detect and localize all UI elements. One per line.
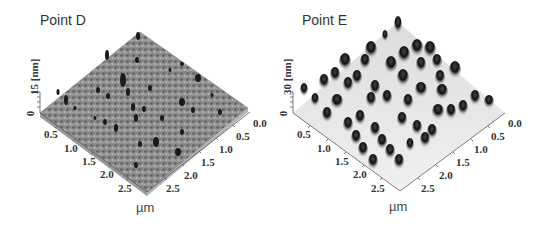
y-tick: 0.5 [491,131,505,142]
afm-surface-d [0,0,275,227]
y-tick: 0.5 [236,131,250,142]
unit-label: µm [136,200,154,215]
x-tick: 1.0 [64,143,78,154]
z-axis-label: 30 [nm] [281,59,293,95]
y-tick: 1.0 [474,144,488,155]
x-tick: 2.0 [353,169,367,180]
y-tick: 1.5 [456,157,470,168]
x-tick: 1.5 [82,156,96,167]
y-tick: 1.0 [219,144,233,155]
x-tick: 2.5 [118,183,132,194]
x-tick: 1.0 [317,143,331,154]
y-tick: 2.0 [184,170,198,181]
z-axis-zero: 0 [25,111,36,117]
y-tick: 0.0 [253,118,267,129]
y-tick: 2.5 [421,183,435,194]
panel-point-d: Point D [0,0,275,227]
y-tick: 2.5 [166,183,180,194]
x-tick: 0.5 [297,129,311,140]
x-tick: 0.5 [44,129,58,140]
x-tick: 2.0 [100,169,114,180]
unit-label: µm [389,199,407,214]
afm-surface-e [275,0,550,227]
y-tick: 2.0 [439,170,453,181]
y-tick: 1.5 [201,157,215,168]
x-tick: 2.5 [371,183,385,194]
z-axis-label: 15 [nm] [28,59,40,95]
z-axis-zero: 0 [278,111,289,117]
panel-point-e: Point E [275,0,550,227]
x-tick: 1.5 [335,156,349,167]
y-tick: 0.0 [508,118,522,129]
